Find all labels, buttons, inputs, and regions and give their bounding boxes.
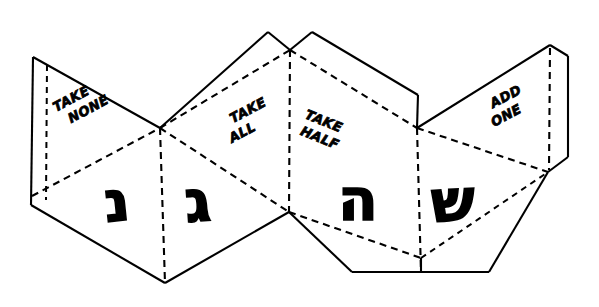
panel-hey-right-notch — [417, 95, 418, 128]
hebrew-letter-gimel: ג — [182, 166, 213, 236]
dreidel-net-drawing: TAKE NONE TAKE ALL TAKE HALF ADD ONE נ ג… — [0, 0, 599, 307]
dreidel-net-figure: TAKE NONE TAKE ALL TAKE HALF ADD ONE נ ג… — [0, 0, 599, 307]
paper-background — [0, 0, 599, 307]
hebrew-letter-hey: ה — [338, 166, 378, 234]
hebrew-letter-shin: ש — [429, 166, 476, 236]
